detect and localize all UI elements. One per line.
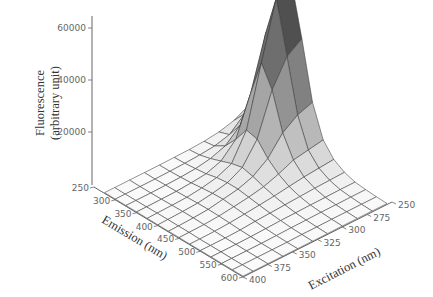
- z-axis-title-line1: Fluorescence: [33, 70, 47, 136]
- excitation-tick-mark: [392, 202, 396, 204]
- excitation-tick-label: 275: [373, 213, 390, 223]
- excitation-tick-mark: [367, 215, 371, 217]
- emission-tick-label: 600: [221, 273, 238, 283]
- emission-tick-mark: [133, 213, 137, 214]
- emission-tick-mark: [90, 187, 94, 188]
- emission-tick-label: 450: [157, 234, 174, 244]
- emission-tick-mark: [111, 200, 115, 201]
- z-axis-ticks: 200004000060000: [57, 23, 92, 137]
- z-axis-title: Fluorescence (arbitrary unit): [33, 66, 62, 140]
- emission-tick-label: 300: [93, 196, 110, 206]
- emission-tick-label: 500: [178, 247, 195, 257]
- emission-tick-label: 550: [200, 260, 217, 270]
- emission-tick-mark: [239, 277, 243, 278]
- fluorescence-3d-surface-chart: 200004000060000 250300350400450500550600…: [0, 0, 433, 297]
- excitation-axis-title: Excitation (nm): [306, 244, 383, 292]
- emission-tick-mark: [154, 226, 158, 227]
- emission-tick-label: 350: [114, 209, 131, 219]
- emission-tick-mark: [175, 238, 179, 239]
- excitation-tick-label: 250: [398, 200, 415, 210]
- excitation-tick-label: 375: [274, 263, 291, 273]
- surface-mesh: [105, 0, 387, 276]
- emission-tick-mark: [218, 264, 222, 265]
- excitation-tick-mark: [293, 252, 297, 254]
- excitation-tick-label: 300: [348, 225, 365, 235]
- excitation-tick-mark: [243, 277, 247, 279]
- z-axis-title-line2: (arbitrary unit): [48, 66, 62, 140]
- emission-tick-mark: [196, 251, 200, 252]
- excitation-tick-label: 325: [324, 238, 341, 248]
- z-tick-label: 60000: [57, 23, 86, 33]
- excitation-tick-label: 400: [249, 275, 266, 285]
- excitation-tick-label: 350: [299, 250, 316, 260]
- emission-tick-label: 250: [72, 183, 89, 193]
- excitation-tick-mark: [268, 265, 272, 267]
- excitation-tick-mark: [342, 227, 346, 229]
- excitation-tick-mark: [318, 240, 322, 242]
- emission-tick-label: 400: [136, 222, 153, 232]
